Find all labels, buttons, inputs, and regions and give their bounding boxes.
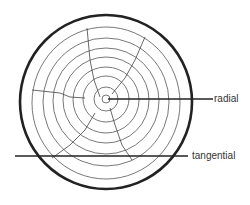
radial-label: radial xyxy=(214,94,238,104)
trunk-cross-section-diagram xyxy=(0,0,250,205)
bark-outline xyxy=(20,15,192,189)
tangential-label: tangential xyxy=(192,151,235,161)
